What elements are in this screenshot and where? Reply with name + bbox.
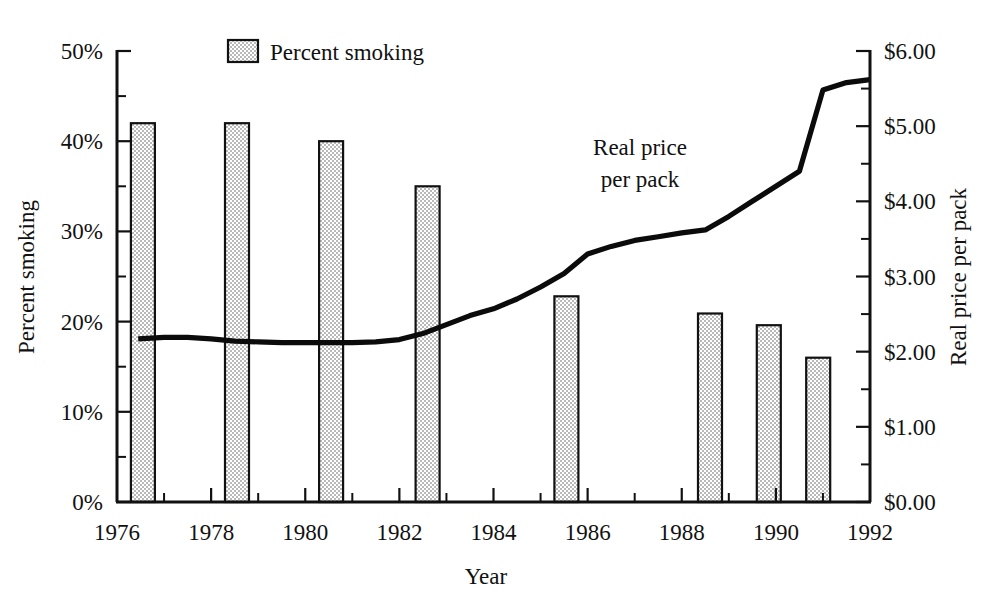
x-tick-label: 1980 [282, 520, 328, 545]
bar [416, 186, 440, 502]
x-tick-label: 1976 [94, 520, 140, 545]
bar [225, 123, 249, 502]
x-tick-label: 1988 [659, 520, 705, 545]
annotation-line-2: per pack [601, 167, 680, 192]
legend-label-percent-smoking: Percent smoking [270, 40, 424, 65]
bar [698, 314, 722, 503]
chart-container: 0%10%20%30%40%50%$0.00$1.00$2.00$3.00$4.… [0, 0, 998, 599]
y-tick-label: 10% [61, 400, 103, 425]
x-tick-label: 1982 [376, 520, 422, 545]
two-axis-bar-line-chart: 0%10%20%30%40%50%$0.00$1.00$2.00$3.00$4.… [0, 0, 998, 599]
y2-tick-label: $0.00 [884, 490, 936, 515]
bar [806, 358, 830, 502]
bar [319, 141, 343, 502]
legend-swatch-percent-smoking [228, 40, 258, 62]
y-tick-label: 30% [61, 219, 103, 244]
x-tick-label: 1990 [753, 520, 799, 545]
y2-tick-label: $2.00 [884, 340, 936, 365]
y-tick-label: 0% [72, 490, 103, 515]
y2-tick-label: $5.00 [884, 114, 936, 139]
annotation-line-1: Real price [593, 135, 687, 160]
bar [554, 296, 578, 502]
x-tick-label: 1984 [471, 520, 518, 545]
legend: Percent smoking [228, 40, 424, 65]
y-tick-label: 20% [61, 310, 103, 335]
y-tick-label: 40% [61, 129, 103, 154]
x-tick-label: 1992 [847, 520, 893, 545]
y2-tick-label: $1.00 [884, 415, 936, 440]
x-tick-label: 1986 [565, 520, 611, 545]
y2-tick-label: $6.00 [884, 39, 936, 64]
y-axis-left-title: Percent smoking [14, 200, 39, 354]
x-tick-label: 1978 [188, 520, 234, 545]
y2-tick-label: $4.00 [884, 189, 936, 214]
y-axis-right-title: Real price per pack [946, 187, 971, 366]
bar [131, 123, 155, 502]
x-axis-title: Year [465, 564, 508, 589]
y2-tick-label: $3.00 [884, 265, 936, 290]
bar [757, 325, 781, 502]
y-tick-label: 50% [61, 39, 103, 64]
